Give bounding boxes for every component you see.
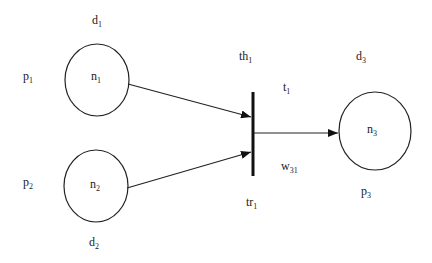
place-label-p1: p1 [23,69,33,85]
arc-n2-t1 [127,152,251,188]
place-label-p2: p2 [23,175,33,191]
arc-n1-t1 [128,84,251,117]
delay-label-d3: d3 [356,49,366,65]
delay-label-d2: d2 [89,235,99,251]
transition-label-tr1: tr1 [246,195,257,211]
arc-weight-w31: w31 [281,159,298,175]
threshold-label-th1: th1 [239,49,252,65]
place-name-n1: n1 [91,69,101,85]
place-name-n2: n2 [90,177,100,193]
delay-label-d1: d1 [92,13,102,29]
petri-net-diagram: d1 p1 n1 p2 n2 d2 th1 t1 w31 tr1 d3 n3 p… [0,0,432,263]
place-name-n3: n3 [367,122,377,138]
transition-name-t1: t1 [283,80,290,96]
place-label-p3: p3 [361,184,371,200]
